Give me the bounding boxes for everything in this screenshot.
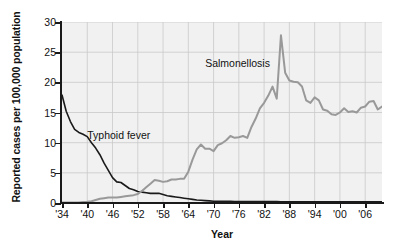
- x-tick-mark: [138, 203, 140, 208]
- x-tick-mark: [365, 203, 367, 208]
- x-axis-spine: [60, 202, 384, 204]
- x-tick-mark: [289, 203, 291, 208]
- x-axis-title: Year: [62, 228, 382, 240]
- series-label-salmonellosis: Salmonellosis: [205, 57, 270, 69]
- chart-figure: Reported cases per 100,000 population 05…: [0, 0, 398, 249]
- series-label-typhoid-fever: Typhoid fever: [87, 129, 150, 141]
- x-tick-mark: [163, 203, 165, 208]
- y-tick-mark: [55, 52, 61, 54]
- y-tick-label: 30: [32, 17, 56, 28]
- plot-area: [62, 22, 382, 203]
- y-tick-label: 0: [32, 198, 56, 209]
- y-tick-mark: [55, 113, 61, 115]
- y-tick-mark: [55, 203, 61, 205]
- x-tick-mark: [62, 203, 64, 208]
- gridlines: [62, 22, 382, 203]
- x-tick-mark: [188, 203, 190, 208]
- y-axis-title: Reported cases per 100,000 population: [10, 7, 22, 207]
- x-tick-mark: [239, 203, 241, 208]
- plot-svg: [62, 22, 382, 203]
- y-tick-label: 15: [32, 108, 56, 119]
- series-line-typhoid-fever: [62, 95, 382, 202]
- x-tick-label: '06: [345, 209, 385, 220]
- x-tick-mark: [113, 203, 115, 208]
- y-tick-mark: [55, 22, 61, 24]
- x-tick-mark: [87, 203, 89, 208]
- x-tick-mark: [214, 203, 216, 208]
- x-tick-mark: [340, 203, 342, 208]
- y-tick-label: 10: [32, 138, 56, 149]
- x-tick-mark: [315, 203, 317, 208]
- x-tick-mark: [264, 203, 266, 208]
- y-tick-mark: [55, 143, 61, 145]
- y-tick-label: 5: [32, 168, 56, 179]
- y-tick-mark: [55, 173, 61, 175]
- y-tick-mark: [55, 82, 61, 84]
- y-tick-label: 20: [32, 77, 56, 88]
- y-tick-label: 25: [32, 47, 56, 58]
